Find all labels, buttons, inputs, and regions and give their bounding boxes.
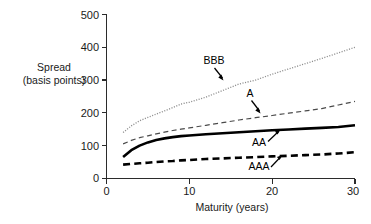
y-axis-title: Spread (basis points) bbox=[23, 61, 85, 86]
x-tick-label-10: 10 bbox=[183, 185, 195, 197]
series-label-aa: AA bbox=[252, 136, 266, 148]
series-curves bbox=[123, 47, 355, 164]
chart-figure: 500 400 300 200 100 0 0 10 20 30 Maturit… bbox=[0, 0, 371, 224]
annotation-bbb: BBB bbox=[203, 54, 224, 81]
annotation-aaa: AAA bbox=[248, 155, 282, 172]
y-axis-title-line2: (basis points) bbox=[23, 74, 85, 86]
x-axis-title: Maturity (years) bbox=[196, 201, 269, 213]
y-axis-title-line1: Spread bbox=[37, 61, 71, 73]
series-line-aa bbox=[123, 125, 355, 157]
series-label-aaa: AAA bbox=[248, 160, 269, 172]
x-tick-label-20: 20 bbox=[266, 185, 278, 197]
x-axis: 0 10 20 30 bbox=[103, 179, 359, 198]
series-label-a: A bbox=[246, 87, 253, 99]
x-tick-label-30: 30 bbox=[347, 185, 359, 197]
annotation-a: A bbox=[246, 87, 260, 114]
y-tick-label-400: 400 bbox=[81, 41, 99, 53]
y-tick-label-100: 100 bbox=[81, 140, 99, 152]
y-axis: 500 400 300 200 100 0 bbox=[81, 9, 107, 185]
series-label-bbb: BBB bbox=[203, 54, 224, 66]
x-tick-label-0: 0 bbox=[103, 185, 109, 197]
y-tick-label-500: 500 bbox=[81, 9, 99, 21]
series-line-a bbox=[123, 101, 355, 143]
series-line-aaa bbox=[123, 152, 355, 164]
y-tick-label-0: 0 bbox=[93, 172, 99, 184]
spread-vs-maturity-chart: 500 400 300 200 100 0 0 10 20 30 Maturit… bbox=[0, 0, 371, 224]
y-tick-label-200: 200 bbox=[81, 107, 99, 119]
